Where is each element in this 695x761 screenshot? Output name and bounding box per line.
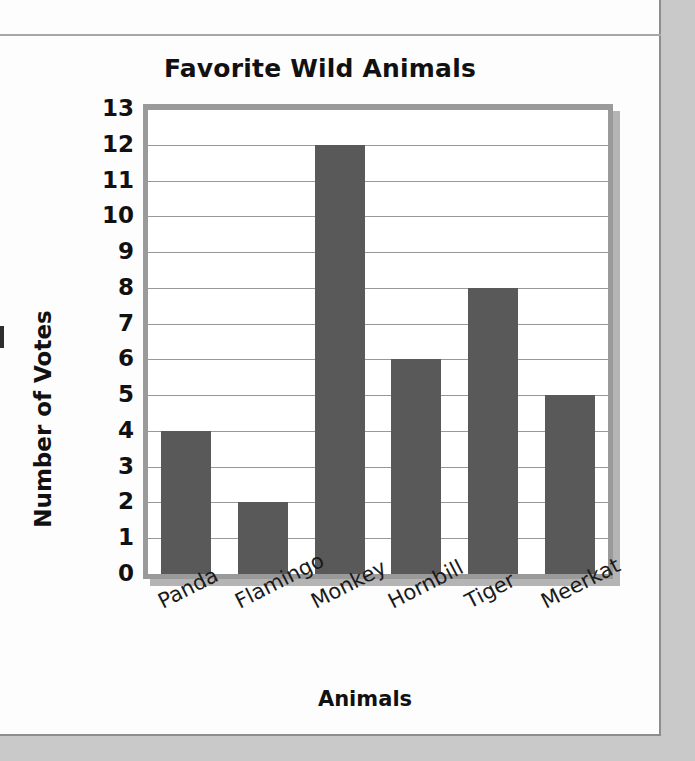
- y-axis-tick-label: 9: [94, 240, 134, 263]
- y-axis-tick-label: 4: [94, 419, 134, 442]
- y-axis-tick-label: 13: [94, 97, 134, 120]
- gridline: [148, 502, 608, 503]
- y-axis-tick-label: 10: [94, 204, 134, 227]
- bar: [161, 431, 211, 574]
- bar: [238, 502, 288, 574]
- y-axis-tick-label: 8: [94, 276, 134, 299]
- y-axis-tick-label: 6: [94, 347, 134, 370]
- gridline: [148, 145, 608, 146]
- chart-title: Favorite Wild Animals: [0, 54, 640, 83]
- worksheet-page: Favorite Wild Animals Number of Votes 01…: [0, 0, 661, 736]
- gridline: [148, 467, 608, 468]
- y-axis-tick-label: 12: [94, 133, 134, 156]
- plot-area: [148, 109, 608, 574]
- gridline: [148, 109, 608, 110]
- gridline: [148, 538, 608, 539]
- y-axis-title: Number of Votes: [30, 279, 56, 559]
- bar: [315, 145, 365, 574]
- y-axis-tick-label: 2: [94, 490, 134, 513]
- gridline: [148, 288, 608, 289]
- gridline: [148, 395, 608, 396]
- y-axis-tick-label: 7: [94, 312, 134, 335]
- gridline: [148, 324, 608, 325]
- gridline: [148, 181, 608, 182]
- bar: [545, 395, 595, 574]
- y-axis-tick-label: 5: [94, 383, 134, 406]
- gridline: [148, 252, 608, 253]
- y-axis-tick-label: 3: [94, 455, 134, 478]
- gridline: [148, 359, 608, 360]
- gridline: [148, 216, 608, 217]
- x-axis-title: Animals: [130, 687, 600, 711]
- gridline: [148, 431, 608, 432]
- y-axis-tick-label: 11: [94, 169, 134, 192]
- bar-chart-figure: Favorite Wild Animals Number of Votes 01…: [0, 36, 661, 736]
- bar: [391, 359, 441, 574]
- y-axis-tick-label: 1: [94, 526, 134, 549]
- y-axis-tick-label: 0: [94, 562, 134, 585]
- bar: [468, 288, 518, 574]
